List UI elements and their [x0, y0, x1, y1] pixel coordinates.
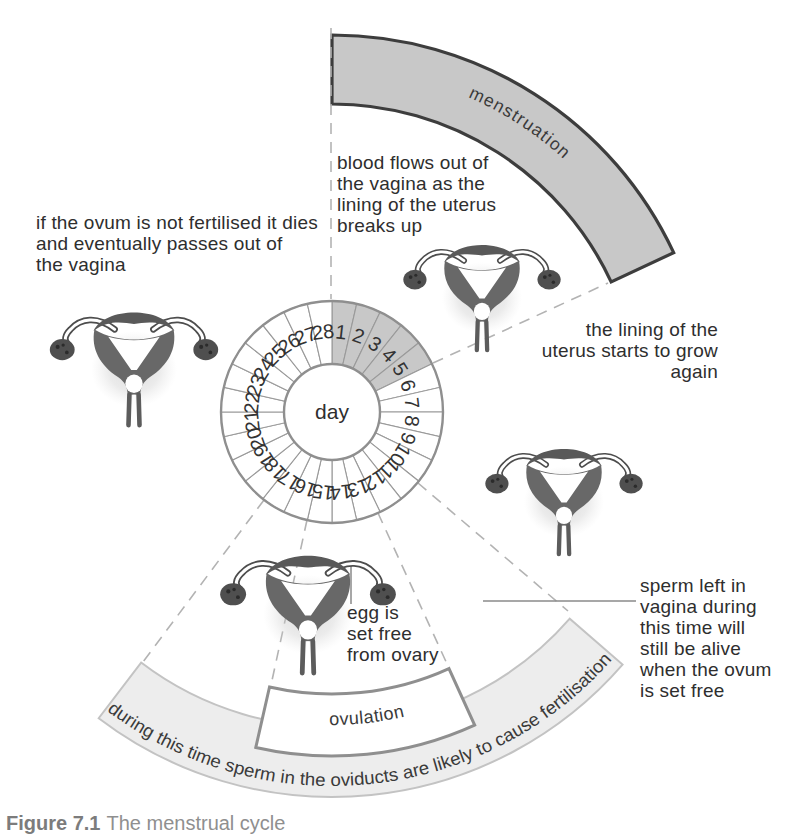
figure-caption: Figure 7.1The menstrual cycle — [6, 812, 285, 835]
figure-caption-number: Figure 7.1 — [6, 812, 100, 834]
day-number-28: 28 — [311, 320, 336, 344]
note-line: if the ovum is not fertilised it dies — [36, 212, 318, 233]
note-line: again — [520, 361, 718, 382]
note-line: uterus starts to grow — [520, 340, 718, 361]
note-menstruation-description: blood flows out of the vagina as the lin… — [337, 152, 496, 236]
note-line: blood flows out of — [337, 152, 496, 173]
note-line: sperm left in — [640, 575, 771, 596]
note-sperm-survival: sperm left in vagina during this time wi… — [640, 575, 771, 701]
note-line: set free — [347, 623, 439, 644]
note-line: when the ovum — [640, 659, 771, 680]
note-line: is set free — [640, 680, 771, 701]
dashed-leader-line — [143, 500, 264, 662]
note-line: the lining of the — [520, 319, 718, 340]
uterus-illustration-left — [50, 313, 218, 426]
note-unfertilised-ovum: if the ovum is not fertilised it dies an… — [36, 212, 318, 275]
note-line: and eventually passes out of — [36, 233, 318, 254]
note-line: breaks up — [337, 215, 496, 236]
note-line: egg is — [347, 602, 439, 623]
note-line: lining of the uterus — [337, 194, 496, 215]
note-line: this time will — [640, 617, 771, 638]
note-line: the vagina as the — [337, 173, 496, 194]
note-line: still be alive — [640, 638, 771, 659]
note-line: vagina during — [640, 596, 771, 617]
note-line: the vagina — [36, 254, 318, 275]
note-egg-release: egg is set free from ovary — [347, 602, 439, 665]
day-wheel-center-label: day — [315, 400, 349, 423]
figure-caption-title: The menstrual cycle — [106, 812, 285, 834]
uterus-illustration-right — [485, 449, 642, 555]
note-lining-regrowth: the lining of the uterus starts to grow … — [520, 319, 718, 382]
note-line: from ovary — [347, 644, 439, 665]
